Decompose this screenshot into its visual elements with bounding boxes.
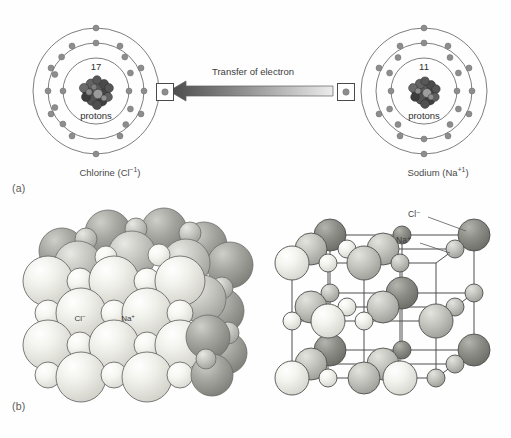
electron: [388, 88, 394, 94]
electron: [127, 70, 133, 76]
electron: [60, 121, 66, 127]
panel-a-atom-transfer: 17 protons Chlorine: [0, 0, 511, 195]
packed-front-layer: [23, 256, 205, 402]
electron: [387, 70, 393, 76]
electron: [122, 54, 128, 60]
chloride-ion: [275, 246, 309, 280]
transfer-of-electron-label: Transfer of electron: [212, 66, 294, 77]
transferred-electron-box-left: [155, 82, 175, 102]
nacl-lattice-model: [268, 203, 498, 408]
electron: [447, 122, 453, 128]
sodium-ion: [355, 312, 373, 330]
sodium-ion: [319, 369, 337, 387]
electron: [421, 151, 427, 157]
sodium-caption: Sodium (Na+1): [378, 166, 498, 178]
electron: [445, 133, 451, 139]
electron: [59, 54, 65, 60]
lattice-chloride-label: Cl⁻: [408, 209, 421, 219]
electron: [466, 111, 472, 117]
electron: [60, 88, 66, 94]
chloride-sphere: [122, 352, 172, 402]
chloride-sphere: [56, 352, 106, 402]
panel-a-letter: (a): [12, 182, 25, 194]
electron: [447, 55, 453, 61]
chlorine-nucleus: [79, 76, 113, 110]
sodium-proton-unit: protons: [408, 110, 440, 121]
electron: [376, 65, 382, 71]
sodium-sphere: [167, 362, 193, 388]
sodium-proton-count: 11: [419, 61, 429, 72]
electron: [466, 65, 472, 71]
electron: [455, 106, 461, 112]
electron: [45, 88, 51, 94]
chloride-ion: [347, 246, 381, 280]
sodium-sphere: [196, 349, 216, 369]
electron: [69, 133, 75, 139]
nacl-close-packed-model: Cl− Na+: [16, 203, 248, 408]
chloride-ion: [383, 361, 417, 395]
chlorine-caption: Chlorine (Cl−1): [48, 166, 172, 178]
electron: [93, 25, 99, 31]
electron: [387, 106, 393, 112]
electron: [395, 55, 401, 61]
chloride-ion: [419, 304, 453, 338]
chloride-ion: [275, 361, 309, 395]
electron: [421, 40, 427, 46]
electron-transfer-arrow: [166, 80, 346, 106]
electron: [117, 133, 123, 139]
electron: [93, 151, 99, 157]
sodium-ion: [465, 284, 483, 302]
electron: [52, 105, 58, 111]
electron: [376, 111, 382, 117]
electron: [138, 111, 144, 117]
sodium-ion: [319, 254, 337, 272]
electron: [123, 122, 129, 128]
sodium-ion: [427, 369, 445, 387]
electron: [455, 70, 461, 76]
electron: [127, 106, 133, 112]
electron: [126, 88, 132, 94]
electron: [397, 133, 403, 139]
electron: [162, 89, 168, 95]
electron: [117, 43, 123, 49]
sodium-atom-diagram: 11 protons: [346, 18, 502, 164]
electron: [138, 65, 144, 71]
electron: [48, 65, 54, 71]
chloride-ion: [348, 362, 380, 394]
electron: [141, 88, 147, 94]
chlorine-proton-count: 17: [91, 61, 102, 72]
chlorine-atom-diagram: 17 protons: [18, 18, 174, 164]
panel-b-letter: (b): [12, 400, 25, 412]
chlorine-proton-unit: protons: [80, 110, 112, 121]
electron: [48, 111, 54, 117]
sodium-ion: [283, 312, 301, 330]
sodium-ion: [391, 254, 409, 272]
electron: [93, 40, 99, 46]
lattice-sodium-label: Na⁺: [396, 235, 411, 245]
electron: [421, 25, 427, 31]
panel-b-crystal-models: Cl− Na+ (b): [0, 195, 511, 438]
electron: [454, 88, 460, 94]
electron: [421, 136, 427, 142]
electron: [69, 43, 75, 49]
electron: [395, 122, 401, 128]
electron: [397, 43, 403, 49]
sodium-ion: [446, 240, 464, 258]
chloride-ion: [311, 304, 345, 338]
sodium-nucleus: [409, 77, 441, 109]
electron: [52, 71, 58, 77]
sodium-ion: [446, 355, 464, 373]
electron: [469, 88, 475, 94]
electron: [445, 43, 451, 49]
